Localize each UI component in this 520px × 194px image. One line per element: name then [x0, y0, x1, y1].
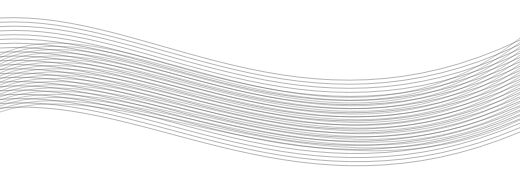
- wave-artwork: [0, 0, 520, 194]
